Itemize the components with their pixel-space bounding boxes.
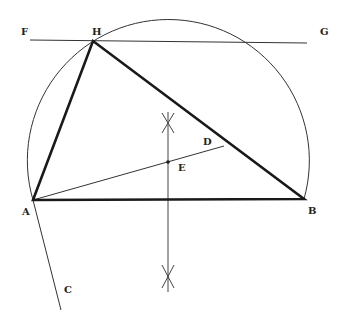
line-ad [33, 146, 224, 200]
line-ac [33, 200, 61, 310]
label-g: G [320, 26, 329, 37]
label-a: A [21, 206, 30, 217]
label-e: E [178, 162, 186, 173]
label-f: F [21, 26, 28, 37]
label-c: C [64, 284, 72, 295]
label-d: D [203, 136, 212, 147]
geometry-diagram: F H G D E A B C [0, 0, 350, 330]
point-e [166, 160, 170, 164]
label-h: H [92, 26, 101, 37]
diagram-canvas: F H G D E A B C [0, 0, 350, 330]
label-b: B [308, 205, 316, 216]
line-fg [30, 40, 307, 43]
